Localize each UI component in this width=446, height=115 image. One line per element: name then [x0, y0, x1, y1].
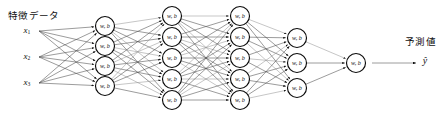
neuron-node: w, b [288, 29, 307, 48]
network-graph: w, bw, bw, bw, bw, bw, bw, bw, bw, bw, b… [0, 0, 446, 115]
neuron-node: w, b [163, 28, 182, 47]
neuron-node: w, b [96, 77, 115, 96]
edge [112, 24, 165, 79]
input-label-3: x3 [23, 77, 31, 87]
edge [249, 90, 286, 98]
neuron-node: w, b [163, 49, 182, 68]
neural-network-diagram: 特徴データ 予測値 w, bw, bw, bw, bw, bw, bw, bw,… [0, 0, 446, 115]
edge [113, 44, 163, 81]
neuron-weight-bias-label: w, b [167, 96, 177, 103]
edge [39, 31, 97, 79]
edge [114, 62, 162, 82]
neuron-weight-bias-label: w, b [167, 75, 177, 82]
neuron-weight-bias-label: w, b [100, 22, 110, 29]
edge [39, 31, 95, 57]
edge [249, 37, 285, 38]
edge [248, 62, 287, 82]
input-label-1: x1 [23, 25, 31, 35]
neuron-weight-bias-label: w, b [292, 59, 302, 66]
edge [249, 66, 286, 76]
edge [39, 27, 94, 31]
edge [306, 67, 346, 84]
nodes-group: w, bw, bw, bw, bw, bw, bw, bw, bw, bw, b… [96, 7, 366, 110]
neuron-node: w, b [288, 54, 307, 73]
output-arrow-group: ŷ [372, 55, 428, 66]
edge [249, 19, 287, 34]
edge [248, 69, 288, 95]
neuron-weight-bias-label: w, b [100, 62, 110, 69]
edge [39, 31, 94, 44]
edge [181, 82, 229, 97]
neuron-node: w, b [96, 17, 115, 36]
neuron-weight-bias-label: w, b [292, 84, 302, 91]
neuron-weight-bias-label: w, b [100, 82, 110, 89]
neuron-weight-bias-label: w, b [235, 96, 245, 103]
neuron-node: w, b [288, 79, 307, 98]
edge [181, 19, 229, 34]
edge [178, 23, 233, 91]
predicted-value-symbol: ŷ [422, 55, 428, 66]
neuron-node: w, b [347, 54, 366, 73]
neuron-weight-bias-label: w, b [235, 33, 245, 40]
neuron-node: w, b [163, 70, 182, 89]
edge [306, 42, 346, 59]
edge [39, 83, 94, 86]
neuron-weight-bias-label: w, b [235, 54, 245, 61]
input-labels-group: x1x2x3 [23, 25, 31, 87]
edge [114, 80, 160, 85]
edge [114, 88, 161, 98]
neuron-node: w, b [231, 28, 250, 47]
edge [249, 80, 285, 86]
neuron-weight-bias-label: w, b [167, 54, 177, 61]
edge [178, 25, 233, 93]
neuron-node: w, b [231, 7, 250, 26]
neuron-weight-bias-label: w, b [292, 34, 302, 41]
neuron-weight-bias-label: w, b [167, 12, 177, 19]
edge [246, 23, 290, 79]
neuron-node: w, b [96, 57, 115, 76]
neuron-weight-bias-label: w, b [235, 12, 245, 19]
neuron-node: w, b [96, 37, 115, 56]
neuron-node: w, b [231, 70, 250, 89]
neuron-node: w, b [163, 91, 182, 110]
input-label-2: x2 [23, 51, 31, 61]
edge [114, 18, 160, 25]
neuron-node: w, b [231, 91, 250, 110]
neuron-node: w, b [231, 49, 250, 68]
neuron-weight-bias-label: w, b [235, 75, 245, 82]
neuron-weight-bias-label: w, b [167, 33, 177, 40]
neuron-node: w, b [163, 7, 182, 26]
neuron-weight-bias-label: w, b [100, 42, 110, 49]
neuron-weight-bias-label: w, b [351, 59, 361, 66]
